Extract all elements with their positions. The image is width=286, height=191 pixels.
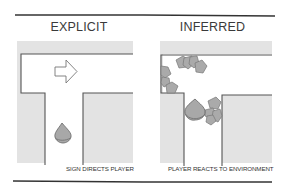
arrow-sign-icon <box>55 60 77 83</box>
panel-caption-inferred: PLAYER REACTS TO ENVIRONMENT <box>168 165 274 172</box>
bottom-left-wall <box>17 93 45 163</box>
bottom-left-wall <box>160 93 184 163</box>
bottom-rule-left <box>13 181 143 182</box>
player-marker-icon <box>185 99 205 120</box>
player-marker-icon <box>55 123 71 143</box>
top-rule-right <box>143 15 275 16</box>
explicit-panel <box>17 41 133 165</box>
panel-title-explicit: EXPLICIT <box>15 20 143 34</box>
top-wall <box>160 41 272 54</box>
top-wall <box>17 41 133 54</box>
panel-title-inferred: INFERRED <box>145 20 280 34</box>
bottom-right-wall <box>83 93 133 163</box>
panel-caption-explicit: SIGN DIRECTS PLAYER <box>66 165 134 172</box>
bottom-right-wall <box>222 95 272 163</box>
inferred-panel <box>160 41 272 166</box>
left-wall <box>17 54 21 93</box>
